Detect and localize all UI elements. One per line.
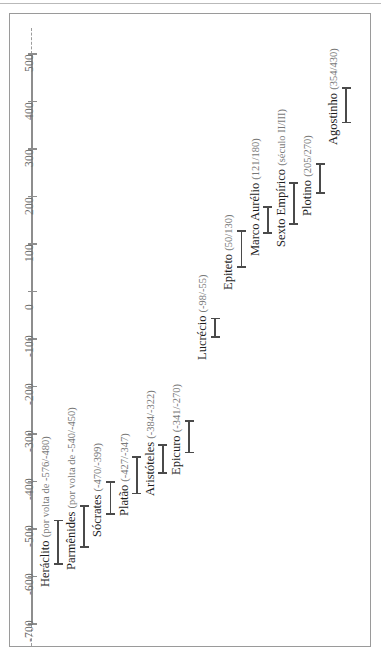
range-stem <box>136 456 138 494</box>
entry-dates: (século II/III) <box>276 109 287 166</box>
range-stem <box>319 163 321 194</box>
entry-label: Epiteto (50/130) <box>219 214 235 289</box>
entry-dates: (por volta de -576/-480) <box>40 436 51 537</box>
lifespan-range-bar[interactable] <box>106 481 115 515</box>
entry-name: Platão <box>117 482 131 516</box>
range-stem <box>57 520 59 566</box>
entry-label: Plotino (205/270) <box>298 135 314 216</box>
entry-dates: (205/270) <box>302 135 313 176</box>
lifespan-range-bar[interactable] <box>237 230 246 268</box>
axis-tick-label: -700 <box>23 620 35 642</box>
entry-name: Epiteto <box>221 251 235 290</box>
entry-label: Aristóteles (-384/-322) <box>141 390 157 496</box>
range-cap-start <box>237 266 246 268</box>
entry-label: Lucrécio (-98/-55) <box>193 275 209 360</box>
entry-name: Heráclito <box>38 537 52 587</box>
entry-name: Marco Aurélio <box>248 180 262 256</box>
figure-frame: 5004003002001000-100-200-300-400-500-600… <box>9 13 371 647</box>
range-cap-start <box>80 546 89 548</box>
lifespan-range-bar[interactable] <box>211 318 220 338</box>
entry-label: Epicuro (-341/-270) <box>167 384 183 475</box>
range-stem <box>188 420 190 454</box>
entry-label: Platão (-427/-347) <box>115 434 131 517</box>
range-stem <box>293 182 295 225</box>
axis-tick-label: -100 <box>23 335 35 357</box>
page-top-rule <box>0 3 381 4</box>
entry-name: Sócrates <box>90 491 104 536</box>
entry-name: Lucrécio <box>195 313 209 361</box>
range-cap-start <box>106 513 115 515</box>
range-stem <box>267 206 269 234</box>
range-stem <box>214 318 216 338</box>
axis-tick-label: 400 <box>23 102 35 120</box>
entry-name: Plotino <box>300 177 314 216</box>
axis-tick-label: 500 <box>23 54 35 72</box>
entry-dates: (121/180) <box>250 138 261 179</box>
entry-label: Sexto Empírico (século II/III) <box>272 109 288 247</box>
lifespan-range-bar[interactable] <box>289 182 298 225</box>
range-cap-start <box>158 472 167 474</box>
lifespan-range-bar[interactable] <box>342 87 351 123</box>
entry-name: Agostinho <box>326 90 340 145</box>
entry-name: Sexto Empírico <box>274 166 288 247</box>
lifespan-range-bar[interactable] <box>316 163 325 194</box>
range-stem <box>241 230 243 268</box>
timeline-plot: 5004003002001000-100-200-300-400-500-600… <box>10 14 370 646</box>
entry-name: Epicuro <box>169 433 183 476</box>
axis-tick-label: 200 <box>23 197 35 215</box>
range-cap-start <box>289 223 298 225</box>
range-stem <box>345 87 347 123</box>
axis-tick-label: 300 <box>23 149 35 167</box>
range-cap-start <box>316 192 325 194</box>
entry-name: Parmênides <box>64 509 78 570</box>
entry-label: Sócrates (-470/-399) <box>88 443 104 537</box>
axis-tick <box>28 291 37 292</box>
range-cap-start <box>185 452 194 454</box>
lifespan-range-bar[interactable] <box>132 456 141 494</box>
entry-dates: (354/430) <box>328 49 339 90</box>
range-cap-start <box>211 336 220 338</box>
axis-tick-label: -200 <box>23 383 35 405</box>
lifespan-range-bar[interactable] <box>185 420 194 454</box>
axis-tick-label: -600 <box>23 573 35 595</box>
entry-dates: (50/130) <box>223 214 234 250</box>
range-stem <box>83 505 85 548</box>
range-cap-start <box>263 232 272 234</box>
axis-dashed-extension-top <box>31 28 32 54</box>
range-stem <box>162 444 164 473</box>
entry-dates: (-341/-270) <box>171 384 182 432</box>
lifespan-range-bar[interactable] <box>158 444 167 473</box>
entry-dates: (-98/-55) <box>197 275 208 313</box>
entry-label: Heráclito (por volta de -576/-480) <box>36 436 52 587</box>
axis-tick-label: 100 <box>23 244 35 262</box>
entry-dates: (-427/-347) <box>119 434 130 482</box>
range-stem <box>110 481 112 515</box>
lifespan-range-bar[interactable] <box>263 206 272 234</box>
entry-dates: (-470/-399) <box>92 443 103 491</box>
entry-name: Aristóteles <box>143 439 157 496</box>
entry-label: Marco Aurélio (121/180) <box>246 138 262 256</box>
entry-dates: (-384/-322) <box>145 390 156 438</box>
range-cap-start <box>132 493 141 495</box>
axis-tick-label: -300 <box>23 430 35 452</box>
entry-label: Agostinho (354/430) <box>324 49 340 146</box>
entry-label: Parmênides (por volta de -540/-450) <box>62 407 78 570</box>
entry-dates: (por volta de -540/-450) <box>66 407 77 508</box>
axis-tick-label: -500 <box>23 525 35 547</box>
axis-tick-label: -400 <box>23 478 35 500</box>
range-cap-start <box>342 122 351 124</box>
axis-tick-label: 0 <box>23 304 35 310</box>
